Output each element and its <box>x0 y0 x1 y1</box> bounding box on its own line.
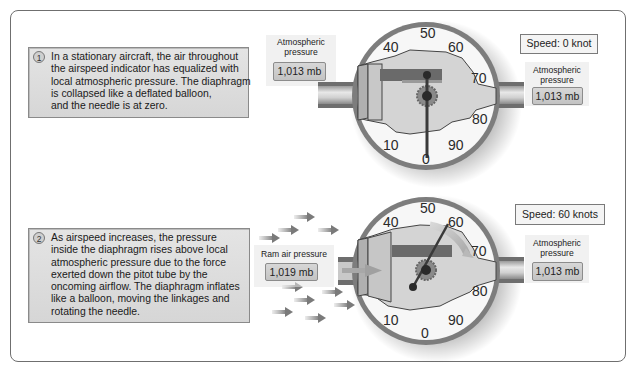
dial-number-10: 10 <box>383 312 399 328</box>
airspeed-indicator-gauge-2: 50 40 60 70 80 10 90 0 <box>0 0 636 374</box>
dial-number-70: 70 <box>471 243 487 259</box>
linkage-bar <box>392 245 452 257</box>
needle-pivot <box>421 265 431 275</box>
dial-number-60: 60 <box>448 214 464 230</box>
inlet-air-arrow-shaft <box>342 268 368 273</box>
dial-number-90: 90 <box>448 312 464 328</box>
needle-pin <box>409 283 417 291</box>
dial-number-80: 80 <box>472 283 488 299</box>
dial-number-50: 50 <box>420 200 436 216</box>
dial-number-0: 0 <box>421 325 429 341</box>
dial-number-40: 40 <box>383 214 399 230</box>
